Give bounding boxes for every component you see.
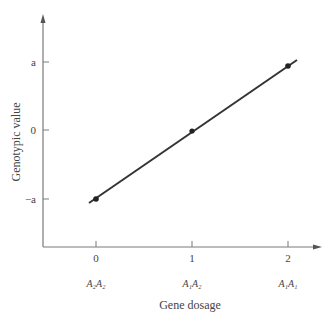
y-axis-label: Genotypic value	[9, 103, 23, 182]
x-axis-label: Gene dosage	[159, 298, 221, 312]
y-tick-label-neg-a: −a	[25, 193, 36, 205]
x-tick-label-0: 0	[93, 252, 99, 264]
y-tick-label-0: 0	[31, 124, 37, 136]
y-axis	[41, 14, 50, 247]
data-point-a1a1	[285, 63, 291, 69]
x-axis	[43, 241, 322, 250]
x-tick-label-1: 1	[189, 252, 195, 264]
y-tick-label-a: a	[31, 56, 36, 68]
chart-canvas: a 0 −a Genotypic value 0 1 2 A₂A₂ A₁A₂ A…	[0, 0, 331, 323]
genotype-label-a2a2: A₂A₂	[85, 278, 106, 289]
genotype-label-a1a2: A₁A₂	[181, 278, 202, 289]
genotype-label-a1a1: A₁A₁	[277, 278, 297, 289]
data-point-a1a2	[189, 128, 194, 133]
y-axis-arrow-icon	[41, 14, 46, 23]
x-axis-arrow-icon	[313, 245, 322, 250]
data-point-a2a2	[93, 196, 99, 202]
x-tick-label-2: 2	[285, 252, 291, 264]
